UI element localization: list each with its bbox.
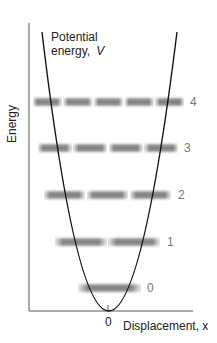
- energy-level-diagram: Energy Displacement, x 0 Potential energ…: [0, 0, 217, 343]
- curve-label-energy: energy,: [51, 44, 90, 58]
- band-segment-fade: [109, 141, 143, 155]
- potential-energy-curve: [42, 32, 177, 311]
- level-label-4: 4: [190, 95, 197, 109]
- band-segment-fade: [64, 95, 93, 109]
- level-label-2: 2: [178, 188, 185, 202]
- band-segment-fade: [55, 235, 107, 249]
- band-segment-fade: [155, 95, 184, 109]
- x-axis-label: Displacement, x: [123, 319, 208, 333]
- band-segment-fade: [125, 95, 154, 109]
- energy-level-4: [33, 95, 184, 109]
- band-segment-fade: [38, 141, 72, 155]
- level-label-3: 3: [184, 141, 191, 155]
- level-label-1: 1: [167, 235, 174, 249]
- curve-label-line2: energy,V: [51, 44, 105, 58]
- curve-label-line1: Potential: [51, 30, 98, 44]
- energy-level-bands: [33, 95, 184, 295]
- band-segment-fade: [109, 235, 161, 249]
- band-segment-fade: [87, 188, 128, 202]
- band-segment-fade: [33, 95, 62, 109]
- origin-label: 0: [105, 315, 112, 329]
- band-segment-fade: [94, 95, 123, 109]
- band-segment-fade: [74, 141, 108, 155]
- y-axis-label: Energy: [5, 105, 19, 143]
- band-segment-fade: [130, 188, 171, 202]
- curve-label-symbol: V: [96, 44, 105, 58]
- level-label-0: 0: [147, 281, 154, 295]
